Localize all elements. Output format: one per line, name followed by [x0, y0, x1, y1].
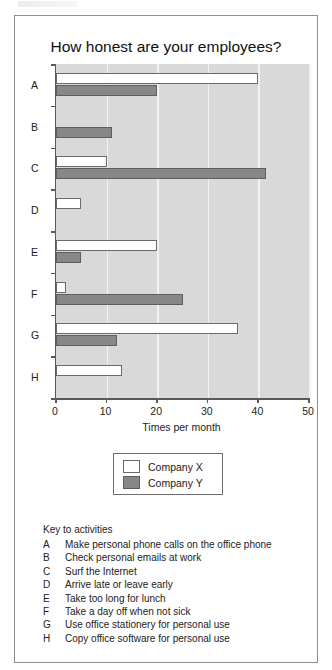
bar-d-company-x	[56, 198, 81, 209]
activity-key-letter: A	[43, 538, 65, 551]
bar-f-company-y	[56, 294, 183, 305]
y-axis-tick	[51, 64, 56, 66]
x-axis-tick-label: 20	[150, 405, 162, 417]
gridline	[258, 64, 260, 398]
y-axis-category-label: E	[31, 246, 38, 258]
activity-key-letter: E	[43, 592, 65, 605]
y-axis-category-label: D	[31, 204, 39, 216]
gridline	[309, 64, 311, 398]
activity-key-description: Use office stationery for personal use	[65, 618, 303, 631]
activity-key-letter: D	[43, 578, 65, 591]
activity-key-item: CSurf the Internet	[43, 565, 303, 578]
bar-b-company-y	[56, 127, 112, 138]
x-axis-tick	[156, 398, 158, 403]
y-axis-category-label: B	[31, 121, 38, 133]
activity-key: Key to activities AMake personal phone c…	[43, 524, 303, 645]
y-axis-tick	[51, 315, 56, 317]
activity-key-list: AMake personal phone calls on the office…	[43, 538, 303, 645]
activity-key-description: Copy office software for personal use	[65, 632, 303, 645]
activity-key-item: FTake a day off when not sick	[43, 605, 303, 618]
bar-e-company-x	[56, 240, 157, 251]
y-axis-category-label: A	[31, 79, 38, 91]
bar-g-company-y	[56, 335, 117, 346]
x-axis-tick-label: 50	[302, 405, 314, 417]
y-axis-category-label: F	[31, 288, 37, 300]
y-axis-category-label: C	[31, 162, 39, 174]
scan-edge-artifact	[18, 1, 78, 7]
bar-e-company-y	[56, 252, 81, 263]
legend-swatch-y	[123, 476, 140, 489]
activity-key-letter: H	[43, 632, 65, 645]
y-axis-tick	[51, 148, 56, 150]
chart-card: How honest are your employees? ABCDEFGH …	[14, 15, 318, 663]
activity-key-description: Check personal emails at work	[65, 551, 303, 564]
y-axis-tick	[51, 231, 56, 233]
y-axis-tick	[51, 106, 56, 108]
legend-label: Company X	[148, 461, 203, 473]
legend-item: Company Y	[123, 476, 203, 489]
x-axis-title: Times per month	[55, 421, 308, 433]
bar-f-company-x	[56, 282, 66, 293]
activity-key-item: AMake personal phone calls on the office…	[43, 538, 303, 551]
bar-g-company-x	[56, 323, 238, 334]
bar-chart: ABCDEFGH Times per month 01020304050	[27, 64, 309, 434]
activity-key-description: Surf the Internet	[65, 565, 303, 578]
gridline	[157, 64, 159, 398]
gridline	[107, 64, 109, 398]
legend-label: Company Y	[148, 477, 203, 489]
y-axis-category-label: G	[31, 329, 39, 341]
activity-key-letter: G	[43, 618, 65, 631]
activity-key-description: Arrive late or leave early	[65, 578, 303, 591]
y-axis-tick	[51, 189, 56, 191]
x-axis-tick-label: 30	[201, 405, 213, 417]
activity-key-item: ETake too long for lunch	[43, 592, 303, 605]
y-axis-category-label: H	[31, 371, 39, 383]
activity-key-letter: B	[43, 551, 65, 564]
activity-key-item: GUse office stationery for personal use	[43, 618, 303, 631]
legend-item: Company X	[123, 460, 203, 473]
chart-title: How honest are your employees?	[15, 38, 317, 56]
bar-a-company-y	[56, 85, 157, 96]
y-axis-tick	[51, 273, 56, 275]
x-axis-tick-label: 40	[252, 405, 264, 417]
x-axis-tick	[55, 398, 57, 403]
x-axis-tick-label: 0	[52, 405, 58, 417]
activity-key-item: BCheck personal emails at work	[43, 551, 303, 564]
bar-c-company-y	[56, 168, 266, 179]
x-axis-tick	[257, 398, 259, 403]
activity-key-letter: C	[43, 565, 65, 578]
x-axis-tick	[207, 398, 209, 403]
legend-swatch-x	[123, 460, 140, 473]
activity-key-letter: F	[43, 605, 65, 618]
activity-key-description: Make personal phone calls on the office …	[65, 538, 303, 551]
x-axis-tick	[106, 398, 108, 403]
bar-h-company-x	[56, 365, 122, 376]
bar-c-company-x	[56, 156, 107, 167]
activity-key-description: Take a day off when not sick	[65, 605, 303, 618]
y-axis-category-labels: ABCDEFGH	[27, 64, 49, 398]
activity-key-description: Take too long for lunch	[65, 592, 303, 605]
activity-key-item: HCopy office software for personal use	[43, 632, 303, 645]
activity-key-heading: Key to activities	[43, 524, 303, 535]
x-axis-tick-label: 10	[100, 405, 112, 417]
chart-legend: Company XCompany Y	[113, 453, 223, 495]
gridline	[208, 64, 210, 398]
x-axis-line	[55, 398, 310, 400]
plot-area	[55, 64, 309, 398]
activity-key-item: DArrive late or leave early	[43, 578, 303, 591]
bar-a-company-x	[56, 73, 258, 84]
y-axis-tick	[51, 356, 56, 358]
x-axis-tick	[308, 398, 310, 403]
